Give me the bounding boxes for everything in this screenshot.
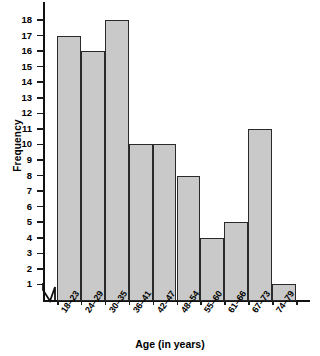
y-tick-label: 17 (12, 31, 32, 40)
y-tick-label: 18 (12, 15, 32, 24)
x-tick-mark (129, 301, 131, 305)
bar (153, 144, 177, 301)
y-axis-title: Frequency (12, 91, 23, 201)
bar (248, 129, 272, 301)
y-tick-mark (37, 190, 44, 192)
y-tick-label: 3 (12, 248, 32, 257)
y-tick-mark (37, 268, 44, 270)
x-tick-mark (81, 301, 83, 305)
x-tick-mark (105, 301, 107, 305)
x-axis-title: Age (in years) (40, 338, 300, 350)
y-tick-label: 4 (12, 233, 32, 242)
y-tick-label: 6 (12, 202, 32, 211)
x-tick-mark (200, 301, 202, 305)
histogram-chart: 12345678910111213141516171818–2324–2930–… (0, 0, 320, 356)
bar (224, 222, 248, 301)
y-tick-label: 16 (12, 46, 32, 55)
y-tick-mark (37, 175, 44, 177)
x-tick-mark (57, 301, 59, 305)
bar (177, 176, 201, 301)
y-tick-label: 14 (12, 77, 32, 86)
x-tick-mark (296, 301, 298, 305)
y-tick-mark (37, 81, 44, 83)
bar (129, 144, 153, 301)
x-tick-mark (272, 301, 274, 305)
x-tick-mark (224, 301, 226, 305)
bar (105, 20, 129, 301)
y-tick-mark (37, 50, 44, 52)
x-tick-mark (248, 301, 250, 305)
plot-area: 12345678910111213141516171818–2324–2930–… (0, 0, 320, 356)
y-tick-label: 5 (12, 217, 32, 226)
y-tick-mark (37, 237, 44, 239)
x-tick-mark (177, 301, 179, 305)
y-tick-mark (37, 113, 44, 115)
y-axis-line (43, 2, 45, 300)
y-tick-mark (37, 206, 44, 208)
y-tick-label: 1 (12, 279, 32, 288)
bar (81, 51, 105, 301)
y-tick-mark (37, 19, 44, 21)
y-tick-mark (37, 128, 44, 130)
y-tick-mark (37, 97, 44, 99)
y-tick-mark (37, 66, 44, 68)
y-tick-mark (37, 221, 44, 223)
y-tick-mark (37, 159, 44, 161)
y-tick-mark (37, 284, 44, 286)
y-tick-mark (37, 144, 44, 146)
x-tick-mark (153, 301, 155, 305)
bar (57, 36, 81, 301)
y-tick-mark (37, 253, 44, 255)
y-tick-label: 2 (12, 264, 32, 273)
y-tick-label: 15 (12, 62, 32, 71)
y-tick-mark (37, 35, 44, 37)
